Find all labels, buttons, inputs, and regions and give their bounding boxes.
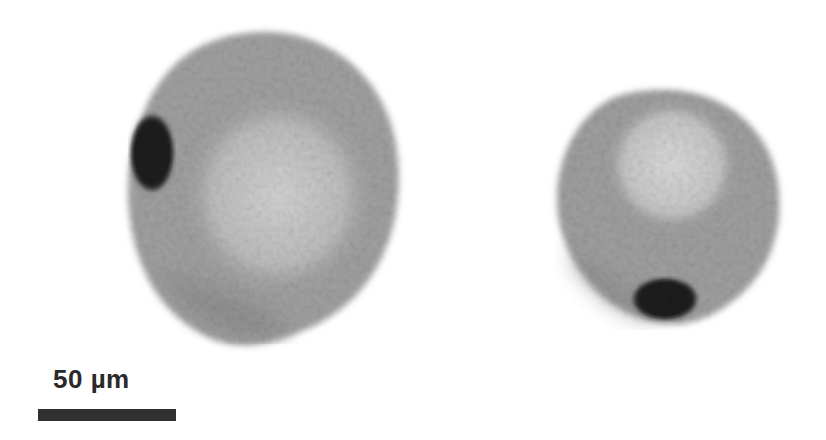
right-cell <box>557 90 779 324</box>
micrograph-figure: 50 µm <box>0 0 826 440</box>
scale-bar <box>38 409 176 421</box>
left-cell <box>128 32 399 345</box>
scale-bar-label: 50 µm <box>53 364 130 395</box>
